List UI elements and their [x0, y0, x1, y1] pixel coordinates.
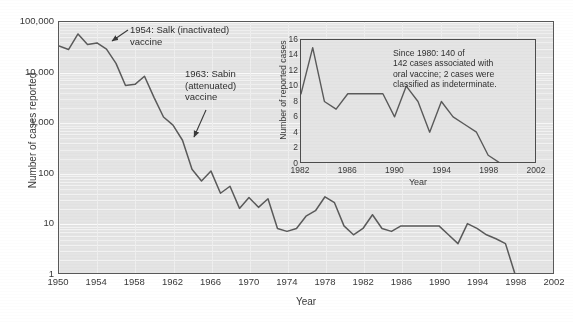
sabin-arrow — [194, 110, 206, 137]
inset-y-tick: 6 — [293, 112, 298, 121]
polio-incidence-figure: Number of cases reported 100,00010,0001,… — [0, 0, 573, 322]
inset-x-tick: 2002 — [519, 166, 553, 175]
inset-x-axis-label: Year — [300, 177, 536, 187]
inset-x-tick: 1998 — [472, 166, 506, 175]
inset-y-tick: 2 — [293, 143, 298, 152]
inset-y-tick: 12 — [289, 66, 298, 75]
inset-x-tick: 1982 — [283, 166, 317, 175]
inset-plot-area: Since 1980: 140 of 142 cases associated … — [300, 39, 536, 163]
inset-y-tick: 10 — [289, 81, 298, 90]
inset-y-tick: 14 — [289, 50, 298, 59]
inset-x-tick: 1986 — [330, 166, 364, 175]
inset-y-axis-ticks: 1614121086420 — [276, 33, 298, 169]
inset-y-tick: 8 — [293, 97, 298, 106]
inset-chart: Number of reported cases 1614121086420 S… — [262, 33, 550, 178]
salk-arrow — [112, 30, 128, 41]
inset-y-tick: 4 — [293, 128, 298, 137]
inset-note-text: Since 1980: 140 of 142 cases associated … — [393, 48, 529, 89]
inset-x-tick: 1994 — [425, 166, 459, 175]
inset-y-tick: 16 — [289, 35, 298, 44]
inset-x-tick: 1990 — [377, 166, 411, 175]
